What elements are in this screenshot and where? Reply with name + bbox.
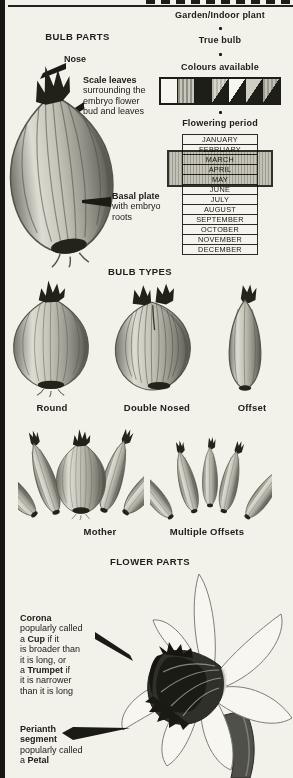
double-nosed-caption: Double Nosed <box>112 402 202 413</box>
colour-swatch-split-white-black <box>229 79 246 103</box>
classification-column: Garden/Indoor plant True bulb Colours av… <box>150 10 290 270</box>
colours-available-title: Colours available <box>150 62 290 72</box>
bulb-anatomy-illustration <box>0 62 120 268</box>
true-bulb-label: True bulb <box>150 35 290 45</box>
colour-swatch-hatched-grey <box>178 79 195 103</box>
separator-dot <box>219 27 222 30</box>
bulb-types-title: BULB TYPES <box>75 266 205 277</box>
bulb-parts-title: BULB PARTS <box>30 31 125 42</box>
offset-caption: Offset <box>227 402 277 413</box>
colour-swatch-split-hatched-black-2 <box>263 79 279 103</box>
colour-swatch-split-hatched-black <box>212 79 229 103</box>
month-row: DECEMBER <box>182 244 258 255</box>
flowering-period-table-wrap: JANUARYFEBRUARYMARCHAPRILMAYJUNEJULYAUGU… <box>167 134 273 270</box>
book-page: Garden/Indoor plant True bulb Colours av… <box>0 0 293 778</box>
flowering-highlight-feb-may <box>167 150 273 187</box>
daffodil-flower-illustration <box>95 570 293 778</box>
multiple-offsets-illustration <box>150 434 272 524</box>
colour-swatch-bar <box>159 77 281 105</box>
round-bulb-illustration <box>7 279 95 397</box>
basal-plate-leader-arrow <box>82 196 111 209</box>
multiple-offsets-caption: Multiple Offsets <box>147 526 267 537</box>
colour-swatch-black <box>195 79 212 103</box>
offset-bulb-illustration <box>222 283 268 395</box>
flower-parts-title: FLOWER PARTS <box>85 556 215 567</box>
corona-label: Coronapopularly calleda Cup if itis broa… <box>20 613 83 696</box>
flowering-period-title: Flowering period <box>150 118 290 128</box>
colour-swatch-white <box>161 79 178 103</box>
cropped-page-title-fragment <box>146 0 293 4</box>
separator-dot <box>219 53 222 56</box>
separator-dot <box>219 111 222 114</box>
colour-swatch-split-grey-black <box>246 79 263 103</box>
corona-leader-arrow <box>95 632 133 661</box>
garden-indoor-label: Garden/Indoor plant <box>150 10 290 20</box>
round-caption: Round <box>22 402 82 413</box>
double-nosed-bulb-illustration <box>108 279 196 399</box>
mother-caption: Mother <box>60 526 140 537</box>
basal-plate-label: Basal platewith embryoroots <box>112 191 161 222</box>
mother-bulb-illustration <box>18 424 144 522</box>
perianth-leader-arrow <box>60 722 132 742</box>
top-rule <box>8 5 293 7</box>
